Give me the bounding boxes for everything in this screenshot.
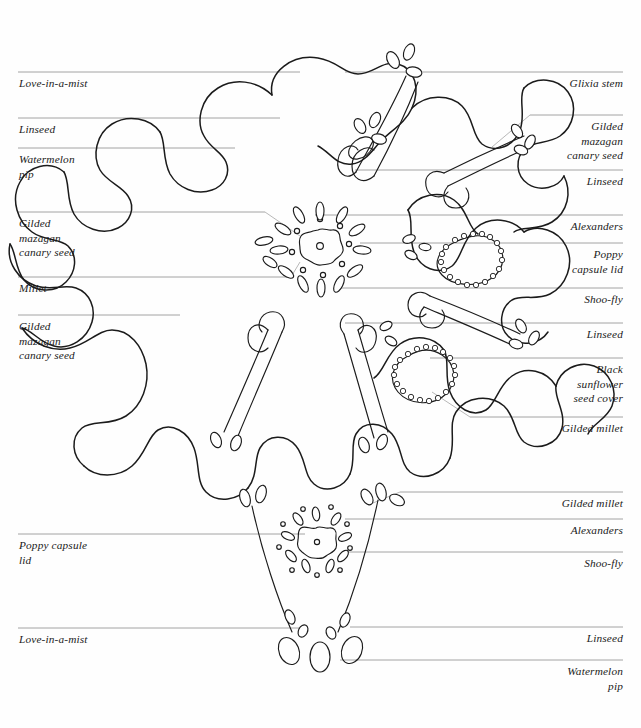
beaded-pod-lower-right [378, 319, 457, 403]
label-shoo-fly-upper: Shoo-fly [584, 292, 623, 307]
label-alexanders-lower: Alexanders [571, 523, 623, 538]
beaded-pod-upper-right [402, 231, 505, 287]
label-gilded-millet-lower: Gilded millet [562, 496, 623, 511]
label-gilded-millet-upper: Gilded millet [562, 421, 623, 436]
upper-stems [208, 42, 541, 454]
upper-left-rules [18, 72, 300, 315]
label-linseed-lower: Linseed [587, 631, 623, 646]
label-glixia-stem: Glixia stem [570, 76, 623, 91]
pod-beads [438, 231, 504, 287]
label-linseed-upper-right-2: Linseed [587, 327, 623, 342]
upper-rosette-outline [9, 57, 614, 499]
label-poppy-capsule-lid-lower: Poppy capsule lid [19, 538, 87, 567]
label-alexanders-upper: Alexanders [571, 219, 623, 234]
label-linseed-upper-right-1: Linseed [587, 174, 623, 189]
label-linseed-upper-left: Linseed [19, 122, 55, 137]
label-shoo-fly-lower: Shoo-fly [584, 556, 623, 571]
label-poppy-capsule-lid-upper: Poppy capsule lid [572, 247, 623, 276]
label-watermelon-pip-lower: Watermelon pip [567, 664, 623, 693]
label-millet: Millet [19, 281, 47, 296]
lower-motif [238, 482, 407, 672]
label-love-in-a-mist-lower: Love-in-a-mist [19, 632, 88, 647]
label-gilded-mazagan-right: Gilded mazagan canary seed [567, 119, 623, 163]
label-gilded-mazagan-upper-1: Gilded mazagan canary seed [19, 216, 75, 260]
label-black-sunflower-seed-cover: Black sunflower seed cover [574, 362, 623, 406]
seed-mosaic-artwork: .ink { fill:none; stroke:#1b1b1b; stroke… [0, 0, 641, 728]
label-gilded-mazagan-upper-2: Gilded mazagan canary seed [19, 319, 75, 363]
lower-right-rules [340, 492, 623, 660]
label-love-in-a-mist-upper: Love-in-a-mist [19, 76, 88, 91]
label-watermelon-pip-upper: Watermelon pip [19, 152, 75, 181]
diagram-page: .ink { fill:none; stroke:#1b1b1b; stroke… [0, 0, 641, 728]
